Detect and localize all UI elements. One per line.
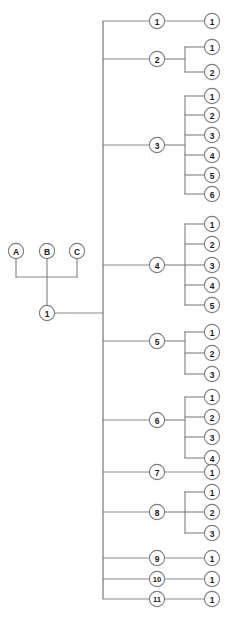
branch-4-leaf-3[interactable]: 3: [204, 257, 219, 272]
branch-11-leaf-1-label: 1: [210, 595, 215, 605]
branch-6-node[interactable]: 6: [149, 412, 164, 427]
branch-4-leaf-2[interactable]: 2: [204, 236, 219, 251]
branch-4-leaf-1[interactable]: 1: [204, 216, 219, 231]
branch-3-node-label: 3: [155, 141, 160, 151]
branch-1-node-label: 1: [155, 17, 160, 27]
branch-1-leaf-1[interactable]: 1: [204, 13, 219, 28]
branch-5-leaf-2[interactable]: 2: [204, 345, 219, 360]
branch-3-node[interactable]: 3: [149, 137, 164, 152]
branch-7-node-label: 7: [155, 468, 160, 478]
branch-2-node-label: 2: [155, 55, 160, 65]
branch-11-leaf-1[interactable]: 1: [204, 591, 219, 606]
branch-11-node[interactable]: 11: [149, 591, 164, 606]
root-node-a-label: A: [13, 247, 19, 257]
branch-1-node[interactable]: 1: [149, 13, 164, 28]
branch-5-leaf-1[interactable]: 1: [204, 324, 219, 339]
branch-9-leaf-1[interactable]: 1: [204, 550, 219, 565]
branch-3-leaf-2-label: 2: [210, 111, 215, 121]
branch-3-leaf-4-label: 4: [210, 151, 215, 161]
branch-2-node[interactable]: 2: [149, 51, 164, 66]
branch-9-node-label: 9: [155, 554, 160, 564]
root-node-b-label: B: [44, 247, 50, 257]
branch-5-node-label: 5: [155, 337, 160, 347]
branch-6-leaf-2[interactable]: 2: [204, 409, 219, 424]
branch-3-leaf-1[interactable]: 1: [204, 88, 219, 103]
branch-8-leaf-1-label: 1: [210, 488, 215, 498]
branch-1-leaf-1-label: 1: [210, 17, 215, 27]
branch-6-leaf-4-label: 4: [210, 454, 215, 464]
branch-2-leaf-2-label: 2: [210, 68, 215, 78]
branch-6-leaf-1[interactable]: 1: [204, 389, 219, 404]
branch-5-leaf-3-label: 3: [210, 370, 215, 380]
branch-3-leaf-5-label: 5: [210, 171, 215, 181]
branch-6-node-label: 6: [155, 416, 160, 426]
branch-8-leaf-2-label: 2: [210, 508, 215, 518]
branch-10-node[interactable]: 10: [149, 571, 164, 586]
tree-diagram-svg: ABC1112123123456412345512361234718123911…: [0, 0, 236, 620]
branch-4-leaf-1-label: 1: [210, 220, 215, 230]
branch-3-leaf-5[interactable]: 5: [204, 167, 219, 182]
branch-4-leaf-4[interactable]: 4: [204, 277, 219, 292]
root-node-c-label: C: [74, 247, 80, 257]
branch-4-leaf-5[interactable]: 5: [204, 297, 219, 312]
branch-5-leaf-1-label: 1: [210, 328, 215, 338]
branch-7-node[interactable]: 7: [149, 464, 164, 479]
root-node-c[interactable]: C: [69, 243, 84, 258]
branch-5-leaf-3[interactable]: 3: [204, 366, 219, 381]
branch-8-leaf-3-label: 3: [210, 529, 215, 539]
tree-diagram-canvas: ABC1112123123456412345512361234718123911…: [0, 0, 236, 620]
branch-2-leaf-1-label: 1: [210, 43, 215, 53]
branch-3-leaf-6[interactable]: 6: [204, 186, 219, 201]
branch-7-leaf-1-label: 1: [210, 468, 215, 478]
branch-4-leaf-4-label: 4: [210, 281, 215, 291]
branch-8-leaf-3[interactable]: 3: [204, 525, 219, 540]
branch-3-leaf-3-label: 3: [210, 131, 215, 141]
branch-9-leaf-1-label: 1: [210, 554, 215, 564]
branch-6-leaf-1-label: 1: [210, 393, 215, 403]
branch-10-node-label: 10: [153, 575, 161, 584]
branch-2-leaf-2[interactable]: 2: [204, 64, 219, 79]
branch-3-leaf-3[interactable]: 3: [204, 127, 219, 142]
branch-5-node[interactable]: 5: [149, 333, 164, 348]
stem-node-1[interactable]: 1: [39, 305, 54, 320]
branch-4-leaf-5-label: 5: [210, 301, 215, 311]
branch-6-leaf-4[interactable]: 4: [204, 450, 219, 465]
branch-8-node[interactable]: 8: [149, 504, 164, 519]
branch-11-node-label: 11: [153, 595, 162, 604]
branch-6-leaf-3[interactable]: 3: [204, 429, 219, 444]
branch-3-leaf-6-label: 6: [210, 190, 215, 200]
branch-3-leaf-1-label: 1: [210, 92, 215, 102]
branch-6-leaf-3-label: 3: [210, 433, 215, 443]
branch-4-leaf-3-label: 3: [210, 261, 215, 271]
branch-6-leaf-2-label: 2: [210, 413, 215, 423]
nodes-layer: ABC1112123123456412345512361234718123911…: [8, 13, 219, 606]
branch-3-leaf-4[interactable]: 4: [204, 147, 219, 162]
branch-8-leaf-1[interactable]: 1: [204, 484, 219, 499]
branch-8-node-label: 8: [155, 508, 160, 518]
branch-7-leaf-1[interactable]: 1: [204, 464, 219, 479]
root-node-a[interactable]: A: [8, 243, 23, 258]
branch-10-leaf-1[interactable]: 1: [204, 571, 219, 586]
branch-3-leaf-2[interactable]: 2: [204, 107, 219, 122]
branch-4-node-label: 4: [155, 261, 160, 271]
root-node-b[interactable]: B: [39, 243, 54, 258]
branch-4-node[interactable]: 4: [149, 257, 164, 272]
branch-2-leaf-1[interactable]: 1: [204, 39, 219, 54]
stem-node-1-label: 1: [45, 309, 50, 319]
branch-10-leaf-1-label: 1: [210, 575, 215, 585]
branch-9-node[interactable]: 9: [149, 550, 164, 565]
branch-4-leaf-2-label: 2: [210, 240, 215, 250]
branch-8-leaf-2[interactable]: 2: [204, 504, 219, 519]
branch-5-leaf-2-label: 2: [210, 349, 215, 359]
